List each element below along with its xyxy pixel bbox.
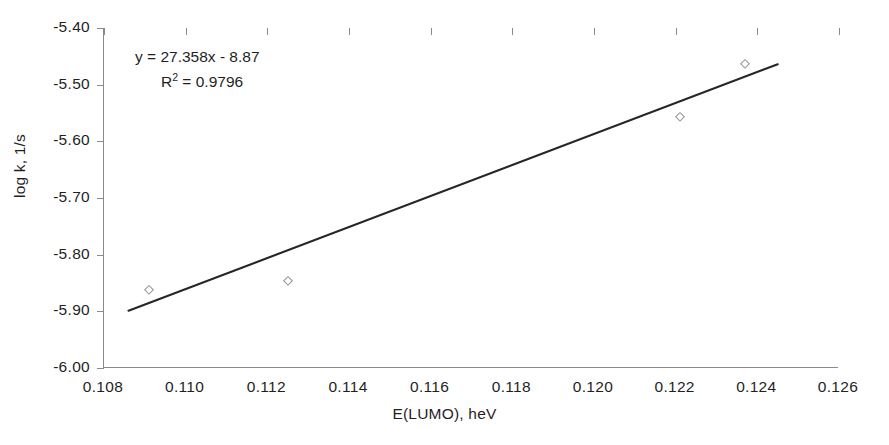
x-axis-tick-label: 0.108 [63, 378, 143, 396]
regression-annotation: y = 27.358x - 8.87 R2 = 0.9796 [135, 44, 260, 94]
r-squared-prefix: R [161, 73, 172, 90]
x-axis-tick [431, 28, 432, 35]
x-axis-tick [839, 28, 840, 35]
r-squared-value: = 0.9796 [178, 73, 243, 90]
data-point-marker [740, 59, 750, 69]
x-axis-tick [594, 28, 595, 35]
x-axis-tick-label: 0.116 [390, 378, 470, 396]
data-point-marker [283, 276, 293, 286]
y-axis-tick-label: -5.40 [0, 18, 90, 36]
data-point-marker [144, 285, 154, 295]
y-axis-tick [97, 368, 104, 369]
x-axis-title: E(LUMO), heV [0, 405, 889, 423]
chart-canvas: -5.40-5.50-5.60-5.70-5.80-5.90-6.000.108… [0, 0, 889, 445]
y-axis-tick [97, 198, 104, 199]
x-axis-tick [757, 28, 758, 35]
y-axis-tick-label: -5.90 [0, 301, 90, 319]
x-axis-tick-label: 0.112 [226, 378, 306, 396]
x-axis-tick [512, 28, 513, 35]
x-axis-tick-label: 0.122 [635, 378, 715, 396]
equation-label: y = 27.358x - 8.87 [135, 44, 260, 69]
x-axis-tick [267, 28, 268, 35]
y-axis-tick [97, 28, 104, 29]
y-axis-tick-label: -6.00 [0, 358, 90, 376]
y-axis-tick [97, 141, 104, 142]
y-axis-tick [97, 255, 104, 256]
y-axis-tick-label: -5.80 [0, 245, 90, 263]
x-axis-tick-label: 0.114 [308, 378, 388, 396]
x-axis-tick-label: 0.126 [798, 378, 878, 396]
x-axis-tick-label: 0.110 [145, 378, 225, 396]
x-axis-tick-label: 0.120 [553, 378, 633, 396]
data-point-marker [675, 112, 685, 122]
trendline-segment [129, 64, 778, 310]
r-squared-label: R2 = 0.9796 [135, 69, 260, 94]
x-axis-tick [186, 28, 187, 35]
y-axis-tick [97, 85, 104, 86]
y-axis-title: log k, 1/s [11, 134, 29, 198]
x-axis-tick [676, 28, 677, 35]
x-axis-tick [104, 28, 105, 35]
x-axis-tick-label: 0.124 [716, 378, 796, 396]
y-axis-tick [97, 311, 104, 312]
x-axis-tick-label: 0.118 [471, 378, 551, 396]
x-axis-tick [349, 28, 350, 35]
y-axis-tick-label: -5.50 [0, 75, 90, 93]
